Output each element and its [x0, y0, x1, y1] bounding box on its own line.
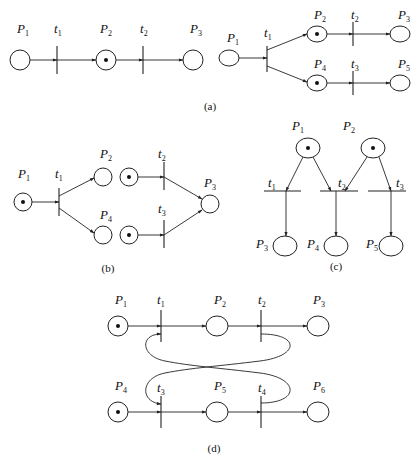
label-P6: P6 [312, 378, 325, 395]
label-P3: P3 [255, 236, 268, 253]
place-P5 [379, 236, 403, 256]
place-P5 [206, 402, 228, 422]
label-P1: P1 [16, 21, 29, 38]
label-P3: P3 [397, 7, 410, 24]
arc [164, 177, 202, 199]
place-P2 [94, 168, 112, 186]
label-t3: t3 [158, 201, 166, 218]
place-P1 [219, 50, 239, 66]
panel-b: P1 t1 P2 t2 P4 t3 P3 [14, 146, 219, 248]
panel-c: P1 P2 t1 t2 t3 P3 P4 P5 [255, 118, 406, 256]
token [116, 324, 120, 328]
arc [345, 157, 367, 191]
caption-c: (c) [330, 260, 343, 273]
arc [267, 34, 307, 50]
arc [379, 157, 391, 191]
arc [164, 210, 202, 235]
label-P1: P1 [226, 30, 239, 47]
label-t3: t3 [396, 175, 404, 192]
label-P5: P5 [397, 56, 410, 73]
label-t2: t2 [338, 175, 346, 192]
label-P2: P2 [213, 292, 226, 309]
label-t2: t2 [258, 292, 266, 309]
label-P2: P2 [313, 7, 326, 24]
label-t1: t1 [55, 166, 63, 183]
caption-d: (d) [208, 442, 221, 455]
label-P1: P1 [114, 292, 127, 309]
token [116, 410, 120, 414]
label-P3: P3 [312, 292, 325, 309]
place-P3 [307, 316, 329, 336]
caption-a: (a) [204, 100, 217, 113]
label-t2: t2 [351, 7, 359, 24]
token [127, 233, 131, 237]
place-P4 [324, 236, 348, 256]
arc [313, 157, 331, 191]
label-P4: P4 [313, 56, 326, 73]
place-P6 [307, 402, 329, 422]
label-t2: t2 [140, 21, 148, 38]
label-P1: P1 [17, 166, 30, 183]
label-t1: t1 [264, 25, 272, 42]
label-t1: t1 [54, 21, 62, 38]
place-P1 [10, 50, 30, 70]
arc [59, 178, 94, 196]
panel-d: P1 t1 P2 t2 P3 P4 t3 P5 t4 P6 [108, 292, 329, 428]
curved-arc-t2-to-t3 [146, 334, 290, 404]
petri-net-figure: P1 t1 P2 t2 P3 P1 t1 P2 t2 P3 P4 t3 P5 [0, 0, 417, 462]
token [306, 146, 310, 150]
label-P1: P1 [291, 118, 304, 135]
label-t1: t1 [157, 292, 165, 309]
place-P3 [201, 195, 219, 213]
place-P5 [390, 75, 410, 91]
place-P3 [183, 50, 203, 70]
label-P2: P2 [99, 146, 112, 163]
place-P3 [273, 236, 297, 256]
place-P4 [94, 226, 112, 244]
label-P5: P5 [365, 236, 378, 253]
label-P4: P4 [114, 378, 127, 395]
label-P4: P4 [306, 236, 319, 253]
label-t1: t1 [268, 175, 276, 192]
panel-a-right: P1 t1 P2 t2 P3 P4 t3 P5 [219, 7, 410, 95]
token [21, 200, 25, 204]
label-P4: P4 [99, 207, 112, 224]
token [127, 175, 131, 179]
label-P3: P3 [203, 175, 216, 192]
token [104, 58, 108, 62]
arc [267, 66, 307, 82]
label-t3: t3 [351, 56, 359, 73]
label-P5: P5 [213, 378, 226, 395]
label-P3: P3 [189, 21, 202, 38]
token [315, 81, 319, 85]
label-t3: t3 [157, 380, 165, 397]
label-t2: t2 [158, 146, 166, 163]
label-P2: P2 [99, 21, 112, 38]
arc [59, 208, 94, 233]
label-P2: P2 [342, 118, 355, 135]
token [371, 146, 375, 150]
place-P2 [206, 316, 228, 336]
label-t4: t4 [258, 380, 266, 397]
token [315, 32, 319, 36]
caption-b: (b) [102, 262, 115, 275]
place-P3 [390, 26, 410, 42]
arc [286, 157, 303, 191]
panel-a-left: P1 t1 P2 t2 P3 [10, 21, 203, 74]
